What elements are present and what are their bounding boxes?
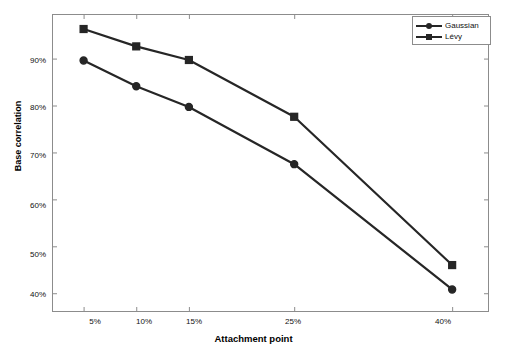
- legend-item-gaussian[interactable]: Gaussian: [416, 20, 487, 31]
- legend-item-levy[interactable]: Lévy: [416, 31, 487, 42]
- square-marker-icon: [426, 34, 432, 40]
- legend: Gaussian Lévy: [412, 16, 491, 45]
- series-canvas: [0, 0, 507, 353]
- legend-swatch-levy: [416, 31, 442, 42]
- legend-label: Gaussian: [442, 21, 479, 31]
- chart-figure: 90% 80% 70% 60% 50% 40% 5% 10% 15% 25% 4…: [0, 0, 507, 353]
- circle-marker-icon: [426, 23, 432, 29]
- legend-swatch-gaussian: [416, 20, 442, 31]
- legend-label: Lévy: [442, 32, 462, 42]
